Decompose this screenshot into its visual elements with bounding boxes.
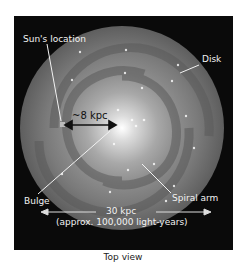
- diameter-note: (approx. 100,000 light-years): [56, 217, 188, 227]
- sun-marker: [60, 122, 65, 127]
- bulge-label: Bulge: [24, 196, 50, 206]
- caption: Top view: [0, 252, 246, 262]
- sun-location-label: Sun's location: [23, 34, 86, 44]
- distance-label: ~8 kpc: [72, 110, 108, 121]
- spiral-arm-label: Spiral arm: [172, 193, 218, 203]
- diameter-label: 30 kpc: [106, 206, 136, 216]
- disk-label: Disk: [202, 54, 221, 64]
- galaxy-diagram-panel: Sun's location Disk ~8 kpc Bulge Spiral …: [14, 16, 233, 250]
